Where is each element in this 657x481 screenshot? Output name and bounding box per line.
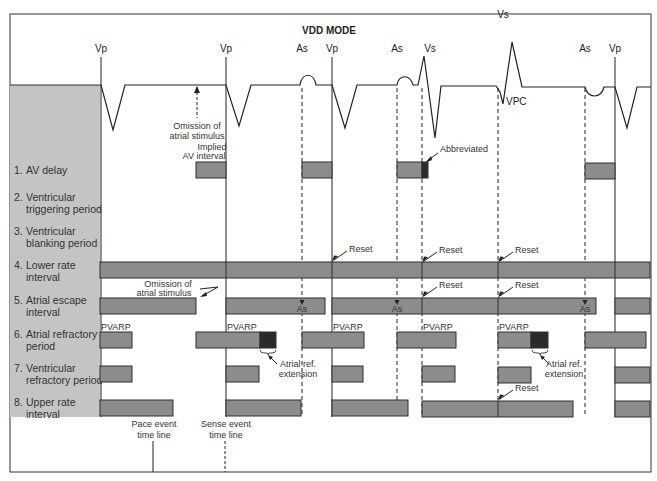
svg-text:Reset: Reset bbox=[515, 383, 539, 393]
svg-text:refractory period: refractory period bbox=[26, 374, 103, 386]
ventricular-refractory-bar bbox=[100, 366, 132, 382]
row-label-1: 1.AV delay bbox=[14, 164, 68, 176]
ventricular-refractory-bar bbox=[615, 367, 650, 383]
svg-text:Reset: Reset bbox=[439, 245, 463, 255]
svg-text:interval: interval bbox=[26, 271, 60, 283]
svg-text:Ventricular: Ventricular bbox=[26, 191, 76, 203]
svg-text:Atrial ref.: Atrial ref. bbox=[280, 359, 316, 369]
svg-text:extension: extension bbox=[279, 369, 318, 379]
svg-text:7.: 7. bbox=[14, 362, 23, 374]
atrial-escape-bar: As bbox=[226, 298, 325, 314]
as-marker: As bbox=[580, 304, 591, 314]
svg-text:atrial stimulus: atrial stimulus bbox=[136, 288, 192, 298]
as-marker: As bbox=[392, 304, 403, 314]
svg-text:period: period bbox=[26, 340, 55, 352]
svg-text:extension: extension bbox=[545, 369, 584, 379]
svg-text:2.: 2. bbox=[14, 191, 23, 203]
pvarp-label: PVARP bbox=[227, 322, 257, 332]
event-label-vp: Vp bbox=[326, 43, 339, 54]
event-label-vp: Vp bbox=[95, 43, 108, 54]
ventricular-refractory-bar bbox=[226, 366, 259, 382]
svg-text:Abbreviated: Abbreviated bbox=[440, 144, 488, 154]
atrial-refractory-bar bbox=[498, 332, 548, 348]
svg-text:3.: 3. bbox=[14, 225, 23, 237]
svg-text:atrial stimulus: atrial stimulus bbox=[169, 131, 225, 141]
event-label-as: As bbox=[296, 43, 308, 54]
svg-text:Reset: Reset bbox=[439, 280, 463, 290]
svg-text:triggering period: triggering period bbox=[26, 203, 102, 215]
atrial-refractory-bar bbox=[397, 332, 456, 348]
svg-text:Reset: Reset bbox=[515, 280, 539, 290]
svg-text:time line: time line bbox=[209, 430, 243, 440]
atrial-escape-bar bbox=[615, 298, 650, 314]
svg-text:interval: interval bbox=[26, 408, 60, 420]
svg-text:blanking period: blanking period bbox=[26, 237, 97, 249]
vdd-mode-timing-diagram: VDD MODE VPC VpVpAsVpAsVsVsAsVp Omission… bbox=[0, 0, 657, 481]
upper-rate-bar bbox=[615, 401, 650, 417]
svg-text:Lower rate: Lower rate bbox=[26, 259, 76, 271]
svg-text:Atrial refractory: Atrial refractory bbox=[26, 328, 98, 340]
upper-rate-bar bbox=[332, 400, 408, 416]
atrial-refractory-bar bbox=[585, 332, 646, 348]
diagram-title: VDD MODE bbox=[302, 25, 356, 36]
as-marker: As bbox=[297, 304, 308, 314]
svg-text:Ventricular: Ventricular bbox=[26, 362, 76, 374]
svg-text:Pace event: Pace event bbox=[131, 419, 177, 429]
av-delay-bar bbox=[397, 162, 428, 178]
svg-text:Sense event: Sense event bbox=[201, 419, 252, 429]
svg-text:5.: 5. bbox=[14, 294, 23, 306]
extension-segment bbox=[531, 332, 548, 348]
event-label-vp: Vp bbox=[609, 43, 622, 54]
svg-text:AV delay: AV delay bbox=[26, 164, 68, 176]
svg-text:Reset: Reset bbox=[349, 244, 373, 254]
pvarp-label: PVARP bbox=[333, 322, 363, 332]
svg-text:interval: interval bbox=[26, 306, 60, 318]
extension-segment bbox=[422, 162, 428, 178]
svg-text:Atrial ref.: Atrial ref. bbox=[546, 359, 582, 369]
svg-text:Omission of: Omission of bbox=[173, 121, 221, 131]
upper-rate-bar bbox=[100, 400, 173, 416]
event-label-vp: Vp bbox=[220, 43, 233, 54]
atrial-escape-bar bbox=[100, 298, 196, 314]
svg-text:6.: 6. bbox=[14, 328, 23, 340]
av-delay-bar bbox=[196, 162, 226, 178]
ventricular-refractory-bar bbox=[332, 366, 363, 382]
svg-text:4.: 4. bbox=[14, 259, 23, 271]
atrial-refractory-bar bbox=[100, 332, 132, 348]
av-delay-bar bbox=[585, 163, 615, 179]
event-label-vs: Vs bbox=[424, 43, 436, 54]
event-label-vs: Vs bbox=[497, 9, 509, 20]
extension-segment bbox=[260, 332, 276, 348]
vpc-label: VPC bbox=[506, 96, 527, 107]
pvarp-label: PVARP bbox=[101, 322, 131, 332]
event-label-as: As bbox=[579, 43, 591, 54]
svg-text:Reset: Reset bbox=[515, 245, 539, 255]
svg-text:AV interval: AV interval bbox=[183, 151, 226, 161]
atrial-refractory-bar bbox=[196, 332, 276, 348]
atrial-refractory-bar bbox=[302, 332, 364, 348]
ventricular-refractory-bar bbox=[422, 366, 455, 382]
svg-text:Ventricular: Ventricular bbox=[26, 225, 76, 237]
upper-rate-bar bbox=[226, 400, 301, 416]
svg-text:Atrial escape: Atrial escape bbox=[26, 294, 87, 306]
pvarp-label: PVARP bbox=[423, 322, 453, 332]
ventricular-refractory-bar bbox=[498, 367, 531, 383]
av-delay-bar bbox=[302, 162, 332, 178]
event-label-as: As bbox=[391, 43, 403, 54]
pvarp-label: PVARP bbox=[499, 322, 529, 332]
lower-rate-bar bbox=[100, 262, 650, 278]
svg-text:time line: time line bbox=[137, 430, 171, 440]
upper-rate-bar bbox=[422, 401, 573, 417]
svg-text:8.: 8. bbox=[14, 396, 23, 408]
svg-text:1.: 1. bbox=[14, 164, 23, 176]
atrial-escape-bar: AsAs bbox=[332, 298, 596, 314]
svg-text:Upper rate: Upper rate bbox=[26, 396, 76, 408]
